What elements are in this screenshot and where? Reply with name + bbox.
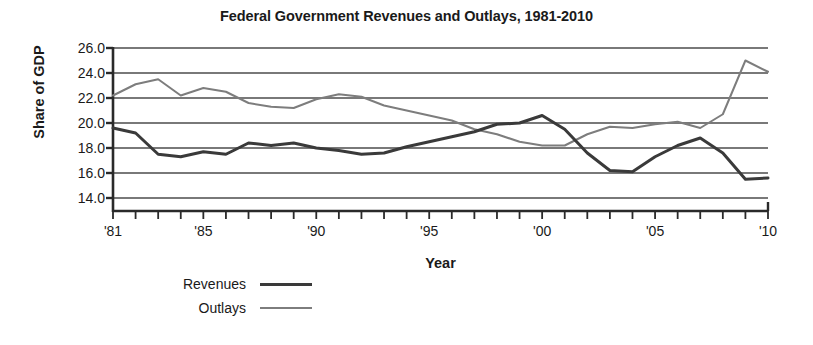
legend-label-outlays: Outlays xyxy=(110,300,260,316)
x-tick-label: '81 xyxy=(90,224,136,238)
chart-legend: Revenues Outlays xyxy=(110,272,410,320)
y-tick-label: 18.0 xyxy=(59,141,105,155)
y-tick-label: 14.0 xyxy=(59,191,105,205)
y-tick-label: 26.0 xyxy=(59,41,105,55)
x-tick-label: '10 xyxy=(745,224,791,238)
x-tick-label: '95 xyxy=(406,224,452,238)
legend-swatch-revenues xyxy=(260,283,312,286)
x-tick-label: '00 xyxy=(519,224,565,238)
legend-swatch-outlays xyxy=(260,307,312,309)
x-tick-label: '90 xyxy=(293,224,339,238)
legend-label-revenues: Revenues xyxy=(110,276,260,292)
y-tick-label: 16.0 xyxy=(59,166,105,180)
chart-figure: Federal Government Revenues and Outlays,… xyxy=(0,0,813,345)
x-tick-label: '05 xyxy=(632,224,678,238)
y-tick-label: 24.0 xyxy=(59,66,105,80)
x-tick-label: '85 xyxy=(180,224,226,238)
legend-item-outlays: Outlays xyxy=(110,296,410,320)
y-tick-label: 22.0 xyxy=(59,91,105,105)
legend-item-revenues: Revenues xyxy=(110,272,410,296)
x-axis-title: Year xyxy=(113,255,768,271)
y-tick-label: 20.0 xyxy=(59,116,105,130)
